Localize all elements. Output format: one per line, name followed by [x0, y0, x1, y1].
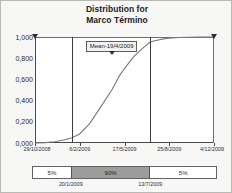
y-axis-tick-label: 0,400 — [3, 97, 33, 104]
y-axis: 1,0000,8000,6000,4000,2000,000 — [1, 37, 33, 143]
x-axis-tick-label: 25/8/2009 — [147, 146, 191, 152]
x-axis-tick-label: 29/10/2008 — [15, 146, 59, 152]
chart-title-line-1: Distribution for — [1, 4, 232, 15]
y-axis-tick-label: 0,600 — [3, 76, 33, 83]
plot-wrapper — [35, 37, 214, 143]
chart-title-line-2: Marco Término — [1, 15, 232, 26]
y-axis-tick-label: 0,200 — [3, 118, 33, 125]
triangle-down-icon — [211, 34, 217, 39]
distribution-chart-card: Distribution for Marco Término 1,0000,80… — [0, 0, 232, 193]
y-axis-tick-label: 1,000 — [3, 34, 33, 41]
x-axis-tick-label: 6/2/2009 — [58, 146, 102, 152]
x-axis-tick-label: 17/5/2009 — [103, 146, 147, 152]
percentile-segment: 90% — [71, 167, 150, 178]
page-title: Distribution for Marco Término — [1, 4, 232, 25]
mean-pointer-icon — [109, 51, 115, 55]
percentile-segment: 5% — [150, 167, 216, 178]
cumulative-curve — [35, 37, 214, 143]
percentile-bar: 5%90%5% — [32, 166, 217, 179]
percentile-segment: 5% — [33, 167, 71, 178]
x-axis-tick-label: 4/12/2009 — [190, 146, 232, 152]
percentile-boundary-date: 13/7/2009 — [125, 181, 175, 188]
percentile-marker-line — [72, 37, 73, 143]
x-axis: 29/10/20086/2/200917/5/200925/8/20094/12… — [35, 143, 214, 155]
percentile-marker-line — [150, 37, 151, 143]
percentile-boundary-date: 20/1/2009 — [46, 181, 96, 188]
percentile-boundary-dates: 20/1/200913/7/2009 — [32, 181, 217, 190]
y-axis-tick-label: 0,800 — [3, 55, 33, 62]
triangle-down-icon — [32, 34, 38, 39]
